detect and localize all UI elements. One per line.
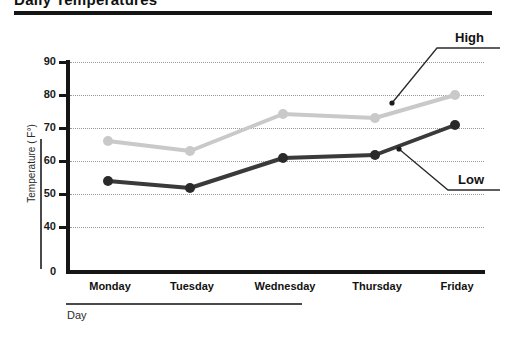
annotation-low: Low	[458, 172, 484, 187]
high-point-wednesday	[278, 109, 288, 119]
x-tick-label-tuesday: Tuesday	[170, 280, 214, 292]
high-leader-dot	[389, 100, 394, 105]
high-point-thursday	[370, 113, 380, 123]
low-point-thursday	[370, 150, 380, 160]
low-leader-dot	[396, 146, 401, 151]
chart-page: Daily Temperatures 90 80 70 60 50 40 0	[0, 0, 508, 339]
x-tick-label-monday: Monday	[89, 280, 131, 292]
high-point-monday	[103, 136, 113, 146]
high-point-friday	[450, 90, 460, 100]
plot-area: 90 80 70 60 50 40 0 Temperature ( F°)	[0, 0, 508, 339]
x-tick-label-wednesday: Wednesday	[255, 280, 316, 292]
x-axis-title: Day	[67, 309, 87, 321]
x-tick-label-friday: Friday	[440, 280, 473, 292]
annotation-high: High	[455, 30, 484, 45]
x-tick-label-thursday: Thursday	[352, 280, 402, 292]
low-point-tuesday	[185, 183, 195, 193]
x-axis-title-rule	[66, 303, 302, 305]
high-point-tuesday	[185, 146, 195, 156]
low-point-wednesday	[278, 153, 288, 163]
low-leader-line	[399, 149, 500, 190]
high-leader-line	[392, 48, 500, 103]
low-point-friday	[450, 120, 460, 130]
low-point-monday	[103, 176, 113, 186]
